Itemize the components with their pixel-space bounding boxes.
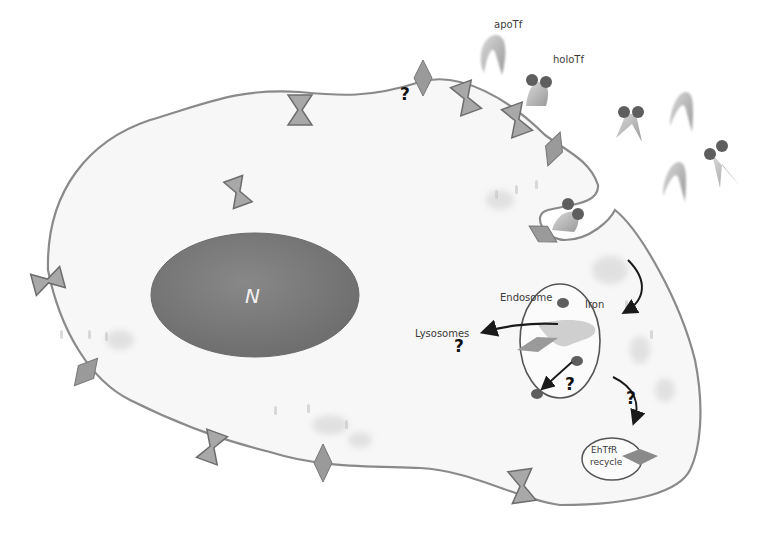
holoTf-free-2 <box>704 140 740 188</box>
holoTf-bound <box>526 74 552 106</box>
label-recycle-line2: recycle <box>590 458 622 467</box>
apoTf-bound <box>481 35 506 75</box>
holoTf-free-1 <box>616 106 644 142</box>
label-endosome: Endosome <box>500 293 552 303</box>
label-nucleus: N <box>245 286 260 306</box>
label-recycle-line1: EhTfR <box>591 446 617 455</box>
label-holoTf: holoTf <box>553 55 584 65</box>
question-mark-membrane: ? <box>400 86 410 103</box>
diagram-canvas: apoTf holoTf N Endosome Iron Lysosomes E… <box>0 0 766 533</box>
label-apoTf: apoTf <box>494 20 522 30</box>
iron-released <box>531 389 543 399</box>
apoTf-free-2 <box>663 162 686 202</box>
question-mark-lysosomes: ? <box>454 338 464 355</box>
label-iron: Iron <box>585 300 604 310</box>
apoTf-free-1 <box>670 92 693 132</box>
receptor-hourglass-bottom-left <box>197 429 228 465</box>
question-mark-iron-release: ? <box>565 376 575 393</box>
question-mark-recycle: ? <box>626 390 636 407</box>
